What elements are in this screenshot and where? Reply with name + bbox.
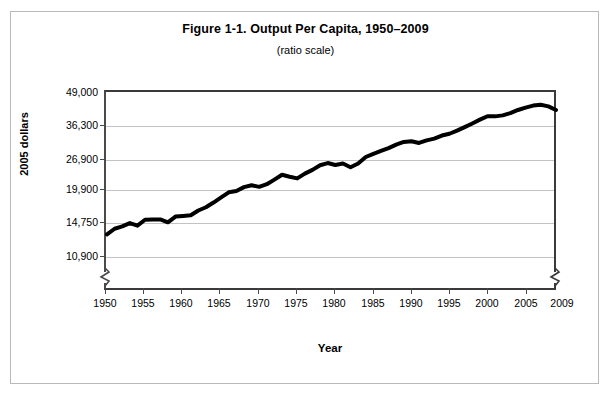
- x-tick-mark-1965: [219, 288, 220, 294]
- x-tick-mark-2005: [526, 288, 527, 294]
- x-tick-mark-2000: [487, 288, 488, 294]
- x-tick-mark-1975: [296, 288, 297, 294]
- y-tick-label-36300: 36,300: [44, 120, 98, 131]
- x-axis-title: Year: [104, 342, 556, 354]
- x-tick-mark-1995: [449, 288, 450, 294]
- x-tick-mark-1990: [411, 288, 412, 294]
- y-tick-label-14750: 14,750: [44, 217, 98, 228]
- left-axis-break-icon: [96, 268, 116, 286]
- y-axis-tick-labels: 49,000 36,300 26,900 19,900 14,750 10,90…: [42, 0, 98, 395]
- right-axis-break-icon: [546, 268, 566, 286]
- y-tick-label-10900: 10,900: [44, 251, 98, 262]
- x-tick-label-1965: 1965: [197, 297, 241, 309]
- x-tick-mark-1970: [258, 288, 259, 294]
- x-tick-mark-1950: [105, 288, 106, 294]
- y-axis-title: 2005 dollars: [18, 84, 30, 204]
- plot-area: [104, 90, 556, 267]
- figure-page: Figure 1-1. Output Per Capita, 1950–2009…: [0, 0, 611, 395]
- x-tick-mark-1960: [181, 288, 182, 294]
- y-tick-label-26900: 26,900: [44, 154, 98, 165]
- x-axis-line: [104, 288, 556, 290]
- x-tick-label-2000: 2000: [465, 297, 509, 309]
- y-tick-label-49000: 49,000: [44, 87, 98, 98]
- x-tick-mark-1980: [334, 288, 335, 294]
- x-tick-mark-1985: [373, 288, 374, 294]
- series-line-output-per-capita: [106, 92, 558, 269]
- x-tick-label-2009: 2009: [540, 297, 584, 309]
- y-tick-label-19900: 19,900: [44, 184, 98, 195]
- x-tick-label-1980: 1980: [312, 297, 356, 309]
- x-tick-mark-1955: [143, 288, 144, 294]
